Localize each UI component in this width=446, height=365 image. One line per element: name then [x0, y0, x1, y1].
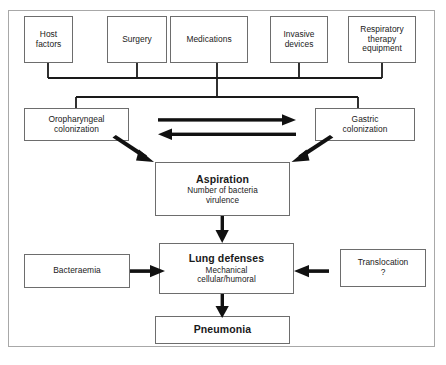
node-translocation[interactable]: Translocation ? [340, 249, 426, 287]
node-oropharyngeal-colonization[interactable]: Oropharyngeal colonization [24, 108, 129, 141]
invasive-devices-line2: devices [285, 40, 314, 50]
translocation-line2: ? [381, 268, 386, 278]
oropharyngeal-line2: colonization [54, 125, 99, 135]
node-gastric-colonization[interactable]: Gastric colonization [315, 108, 415, 141]
node-invasive-devices[interactable]: Invasive devices [270, 16, 328, 63]
oropharyngeal-line1: Oropharyngeal [48, 115, 104, 125]
respiratory-therapy-line3: equipment [362, 44, 402, 54]
bacteraemia-line1: Bacteraemia [53, 266, 101, 276]
aspiration-title: Aspiration [196, 173, 249, 185]
lung-defenses-line2: cellular/humoral [197, 275, 256, 285]
node-surgery[interactable]: Surgery [107, 16, 167, 63]
lung-defenses-line1: Mechanical [206, 266, 248, 276]
node-aspiration[interactable]: Aspiration Number of bacteria virulence [155, 162, 290, 216]
gastric-line1: Gastric [352, 115, 379, 125]
pneumonia-title: Pneumonia [194, 323, 252, 335]
host-factors-line2: factors [36, 40, 61, 50]
node-host-factors[interactable]: Host factors [24, 16, 73, 63]
node-medications[interactable]: Medications [170, 16, 248, 63]
node-pneumonia[interactable]: Pneumonia [155, 316, 290, 344]
aspiration-line2: virulence [206, 196, 239, 206]
surgery-line1: Surgery [122, 35, 152, 45]
node-bacteraemia[interactable]: Bacteraemia [24, 254, 130, 288]
lung-defenses-title: Lung defenses [189, 252, 264, 264]
node-lung-defenses[interactable]: Lung defenses Mechanical cellular/humora… [159, 243, 294, 294]
aspiration-line1: Number of bacteria [187, 186, 258, 196]
invasive-devices-line1: Invasive [283, 30, 314, 40]
diagram-canvas: Host factors Surgery Medications Invasiv… [0, 0, 446, 365]
host-factors-line1: Host [40, 30, 57, 40]
gastric-line2: colonization [343, 125, 388, 135]
medications-line1: Medications [186, 35, 231, 45]
node-respiratory-therapy-equipment[interactable]: Respiratory therapy equipment [348, 16, 416, 63]
